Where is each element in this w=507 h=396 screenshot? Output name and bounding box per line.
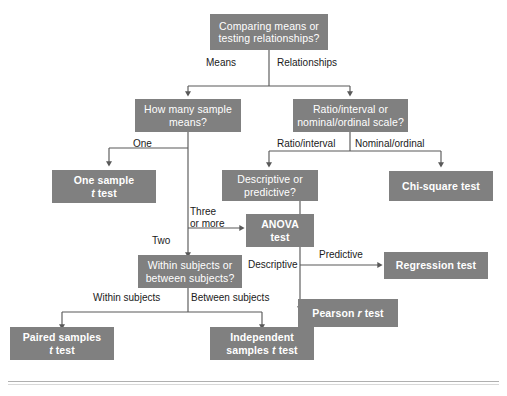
node-text: Descriptive orpredictive? xyxy=(233,173,307,198)
footer-divider-secondary xyxy=(8,384,499,385)
edge-label-one: One xyxy=(133,138,152,150)
node-descriptive-or-predictive[interactable]: Descriptive orpredictive? xyxy=(222,170,318,201)
node-text: Within subjects orbetween subjects? xyxy=(142,259,239,284)
node-text: Comparing means ortesting relationships? xyxy=(215,20,324,45)
edge-label-between-subjects: Between subjects xyxy=(191,292,269,304)
node-text: Ratio/interval ornominal/ordinal scale? xyxy=(293,103,408,128)
edge-label-three-or-more: Threeor more xyxy=(190,206,242,229)
node-text: ANOVAtest xyxy=(257,218,303,243)
node-text: Pearson r test xyxy=(308,307,387,319)
node-text: Regression test xyxy=(392,259,480,271)
node-how-many-sample-means[interactable]: How many samplemeans? xyxy=(135,99,241,132)
node-regression-test[interactable]: Regression test xyxy=(384,252,488,279)
node-paired-samples-t-test[interactable]: Paired samplest test xyxy=(10,327,114,360)
node-text: Independentsamples t test xyxy=(222,331,301,356)
node-anova-test[interactable]: ANOVAtest xyxy=(246,214,314,247)
node-pearson-r-test[interactable]: Pearson r test xyxy=(298,299,398,327)
edge-label-nominal-ordinal: Nominal/ordinal xyxy=(355,138,424,150)
edge-label-descriptive: Descriptive xyxy=(248,259,297,271)
footer-divider xyxy=(8,381,499,382)
edge-label-ratio-interval: Ratio/interval xyxy=(277,138,335,150)
edge-label-predictive: Predictive xyxy=(319,249,363,261)
node-text: One samplet test xyxy=(70,174,139,199)
node-comparing-means-or-testing-relationships[interactable]: Comparing means ortesting relationships? xyxy=(210,14,328,50)
node-text: Paired samplest test xyxy=(19,331,105,356)
edge-label-within-subjects: Within subjects xyxy=(93,292,160,304)
node-ratio-interval-or-nominal-ordinal-scale[interactable]: Ratio/interval ornominal/ordinal scale? xyxy=(293,99,408,132)
node-one-sample-t-test[interactable]: One samplet test xyxy=(52,170,156,203)
node-text: Chi-square test xyxy=(398,180,484,192)
node-within-subjects-or-between-subjects[interactable]: Within subjects orbetween subjects? xyxy=(138,255,242,288)
edge-label-two: Two xyxy=(152,235,170,247)
edge-label-relationships: Relationships xyxy=(277,57,337,69)
flowchart-canvas: Comparing means ortesting relationships?… xyxy=(0,0,507,396)
node-independent-samples-t-test[interactable]: Independentsamples t test xyxy=(210,327,314,360)
node-text: How many samplemeans? xyxy=(140,103,236,128)
node-chi-square-test[interactable]: Chi-square test xyxy=(389,171,493,201)
edge-label-means: Means xyxy=(206,57,236,69)
